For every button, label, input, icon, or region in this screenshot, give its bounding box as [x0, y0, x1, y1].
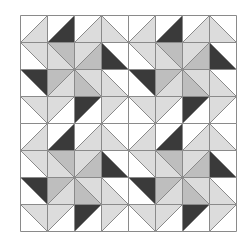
quilt-cell	[210, 124, 237, 151]
quilt-cell	[102, 43, 129, 70]
quilt-cell	[48, 43, 75, 70]
quilt-cell	[48, 178, 75, 205]
quilt-cell	[102, 124, 129, 151]
quilt-cell	[21, 97, 48, 124]
quilt-cell	[75, 205, 102, 232]
quilt-cell	[210, 70, 237, 97]
quilt-cell	[183, 16, 210, 43]
quilt-cell	[102, 97, 129, 124]
quilt-cell	[210, 205, 237, 232]
quilt-cell	[75, 43, 102, 70]
quilt-cell	[102, 178, 129, 205]
quilt-cell	[156, 124, 183, 151]
quilt-cell	[21, 151, 48, 178]
quilt-cell	[21, 124, 48, 151]
quilt-cell	[129, 151, 156, 178]
quilt-cell	[156, 151, 183, 178]
quilt-cell	[21, 205, 48, 232]
quilt-cell	[102, 151, 129, 178]
quilt-cell	[75, 16, 102, 43]
quilt-cell	[129, 70, 156, 97]
quilt-cell	[75, 70, 102, 97]
quilt-cell	[156, 178, 183, 205]
quilt-cell	[129, 205, 156, 232]
quilt-cell	[102, 70, 129, 97]
quilt-cell	[210, 16, 237, 43]
quilt-cell	[21, 16, 48, 43]
quilt-cell	[48, 151, 75, 178]
quilt-cell	[102, 16, 129, 43]
quilt-cell	[210, 151, 237, 178]
quilt-cell	[75, 151, 102, 178]
quilt-cell	[21, 178, 48, 205]
quilt-cell	[156, 97, 183, 124]
quilt-cell	[48, 124, 75, 151]
quilt-cell	[183, 178, 210, 205]
quilt-cell	[210, 97, 237, 124]
quilt-cell	[183, 97, 210, 124]
quilt-cell	[183, 205, 210, 232]
quilt-cell	[48, 97, 75, 124]
quilt-cell	[48, 70, 75, 97]
quilt-cell	[210, 178, 237, 205]
quilt-cell	[183, 70, 210, 97]
quilt-cell	[210, 43, 237, 70]
quilt-cell	[183, 43, 210, 70]
quilt-cell	[75, 178, 102, 205]
quilt-cell	[183, 124, 210, 151]
quilt-cell	[48, 16, 75, 43]
quilt-cell	[102, 205, 129, 232]
quilt-cell	[75, 124, 102, 151]
quilt-cell	[21, 43, 48, 70]
quilt-cell	[156, 43, 183, 70]
quilt-diagram	[20, 15, 237, 232]
quilt-cell	[129, 97, 156, 124]
quilt-cell	[21, 70, 48, 97]
quilt-cell	[75, 97, 102, 124]
quilt-cell	[129, 16, 156, 43]
quilt-cell	[156, 70, 183, 97]
quilt-cell	[156, 205, 183, 232]
quilt-cell	[129, 178, 156, 205]
quilt-cell	[48, 205, 75, 232]
quilt-cell	[156, 16, 183, 43]
quilt-cell	[183, 151, 210, 178]
quilt-cell	[129, 124, 156, 151]
quilt-cell	[129, 43, 156, 70]
